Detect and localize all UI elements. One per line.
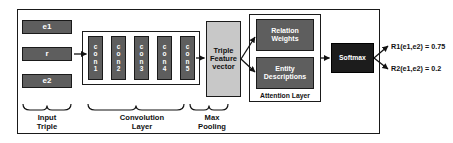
convolution-block-5: con5 — [180, 36, 195, 80]
caption-input-triple-line2: Triple — [14, 122, 80, 131]
convolution-block-4-label: con4 — [161, 43, 168, 73]
convolution-block-2-label: con2 — [115, 43, 122, 73]
convolution-block-4: con4 — [157, 36, 172, 80]
convolution-block-5-label: con5 — [184, 43, 191, 73]
attention-block-entity-descriptions: Entity Descriptions — [256, 57, 314, 89]
attention-block-entity-descriptions-line2: Descriptions — [264, 73, 306, 81]
caption-max-pooling-line2: Pooling — [186, 122, 238, 131]
caption-max-pooling: Max Pooling — [186, 113, 238, 132]
attention-layer-label: Attention Layer — [249, 92, 321, 99]
input-block-e1-label: e1 — [43, 23, 52, 32]
input-block-e1: e1 — [22, 20, 72, 34]
attention-block-relation-weights-line2: Weights — [271, 35, 298, 43]
output-label-r2: R2(e1,e2) = 0.2 — [391, 64, 441, 73]
convolution-block-1-label: con1 — [92, 43, 99, 73]
caption-input-triple: Input Triple — [14, 113, 80, 132]
convolution-block-3: con3 — [134, 36, 149, 80]
convolution-block-3-label: con3 — [138, 43, 145, 73]
attention-block-entity-descriptions-line1: Entity — [275, 65, 294, 73]
caption-convolution-layer: Convolution Layer — [110, 113, 174, 132]
softmax-block-label: Softmax — [339, 54, 366, 61]
input-block-e2: e2 — [22, 74, 72, 88]
output-label-r1: R1(e1,e2) = 0.75 — [391, 42, 445, 51]
caption-input-triple-line1: Input — [14, 113, 80, 122]
input-block-r: r — [22, 47, 72, 61]
caption-convolution-layer-line1: Convolution — [110, 113, 174, 122]
triple-feature-vector-block: Triple Feature vector — [206, 21, 241, 97]
input-block-r-label: r — [45, 50, 48, 59]
input-block-e2-label: e2 — [43, 77, 52, 86]
triple-feature-vector-line3: vector — [212, 63, 235, 71]
convolution-block-2: con2 — [111, 36, 126, 80]
caption-convolution-layer-line2: Layer — [110, 122, 174, 131]
convolution-block-1: con1 — [88, 36, 103, 80]
diagram-canvas: e1 r e2 con1 con2 con3 con4 con5 Triple … — [0, 0, 453, 143]
softmax-block: Softmax — [331, 43, 374, 73]
caption-max-pooling-line1: Max — [186, 113, 238, 122]
attention-block-relation-weights-line1: Relation — [271, 27, 299, 35]
attention-block-relation-weights: Relation Weights — [256, 19, 314, 51]
